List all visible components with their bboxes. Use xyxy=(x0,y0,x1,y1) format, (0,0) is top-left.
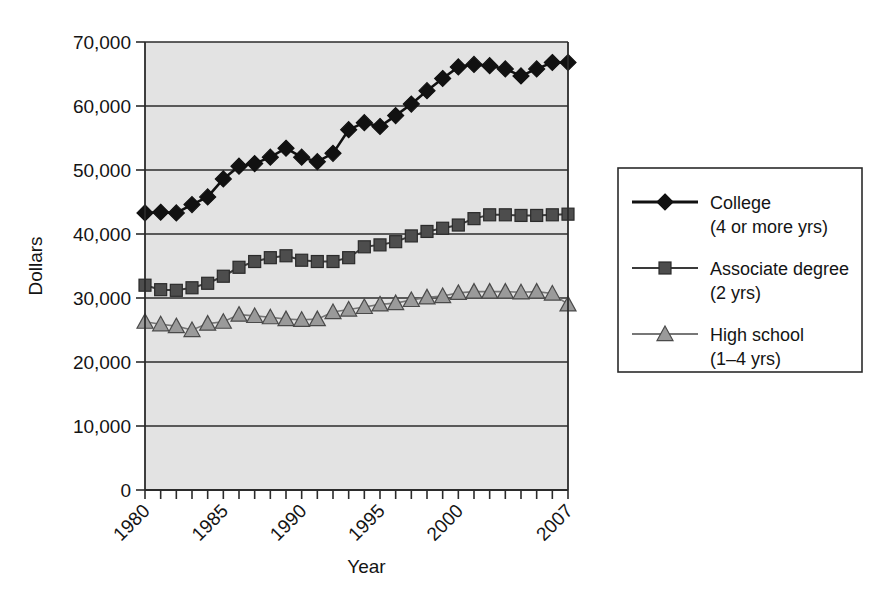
x-axis-ticks xyxy=(145,490,568,499)
data-point-marker xyxy=(452,219,464,231)
data-point-marker xyxy=(659,262,671,274)
legend-sublabel: (1–4 yrs) xyxy=(710,349,781,369)
y-axis-title: Dollars xyxy=(25,236,46,295)
data-point-marker xyxy=(264,252,276,264)
data-point-marker xyxy=(546,209,558,221)
data-point-marker xyxy=(374,239,386,251)
data-point-marker xyxy=(249,256,261,268)
data-point-marker xyxy=(531,209,543,221)
y-tick-label: 40,000 xyxy=(73,224,131,245)
data-point-marker xyxy=(421,225,433,237)
x-tick-label: 1995 xyxy=(344,500,389,545)
data-point-marker xyxy=(280,250,292,262)
y-tick-label: 50,000 xyxy=(73,160,131,181)
data-point-marker xyxy=(499,209,511,221)
y-tick-label: 20,000 xyxy=(73,352,131,373)
plot-area-background xyxy=(145,42,568,490)
data-point-marker xyxy=(468,213,480,225)
data-point-marker xyxy=(484,209,496,221)
x-tick-label: 1990 xyxy=(266,500,311,545)
y-tick-label: 60,000 xyxy=(73,96,131,117)
data-point-marker xyxy=(405,230,417,242)
chart-legend: College(4 or more yrs)Associate degree(2… xyxy=(618,168,862,372)
data-point-marker xyxy=(233,261,245,273)
x-tick-label: 1980 xyxy=(109,500,154,545)
x-tick-label: 2007 xyxy=(532,500,577,545)
y-tick-label: 70,000 xyxy=(73,32,131,53)
x-axis-tick-labels: 198019851990199520002007 xyxy=(109,500,577,545)
legend-sublabel: (4 or more yrs) xyxy=(710,217,828,237)
data-point-marker xyxy=(202,277,214,289)
legend-label: Associate degree xyxy=(710,259,849,279)
x-tick-label: 2000 xyxy=(422,500,467,545)
data-point-marker xyxy=(217,270,229,282)
data-point-marker xyxy=(311,256,323,268)
chart-figure: 010,00020,00030,00040,00050,00060,00070,… xyxy=(0,0,879,608)
data-point-marker xyxy=(343,252,355,264)
y-tick-label: 0 xyxy=(120,480,131,501)
data-point-marker xyxy=(155,284,167,296)
x-tick-label: 1985 xyxy=(187,500,232,545)
data-point-marker xyxy=(390,236,402,248)
data-point-marker xyxy=(515,209,527,221)
data-point-marker xyxy=(296,254,308,266)
legend-label: College xyxy=(710,193,771,213)
y-tick-label: 30,000 xyxy=(73,288,131,309)
y-tick-label: 10,000 xyxy=(73,416,131,437)
y-axis-ticks xyxy=(136,42,145,490)
y-axis-tick-labels: 010,00020,00030,00040,00050,00060,00070,… xyxy=(73,32,131,501)
data-point-marker xyxy=(358,241,370,253)
data-point-marker xyxy=(186,282,198,294)
data-point-marker xyxy=(327,256,339,268)
x-axis-title: Year xyxy=(347,556,386,577)
data-point-marker xyxy=(170,284,182,296)
legend-sublabel: (2 yrs) xyxy=(710,283,761,303)
legend-label: High school xyxy=(710,325,804,345)
data-point-marker xyxy=(437,222,449,234)
